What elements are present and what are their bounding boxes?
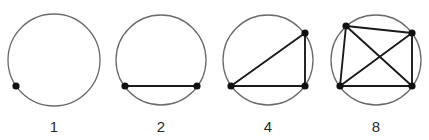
vertex-point	[301, 29, 308, 36]
panel-3: 4	[223, 15, 313, 135]
diagram-canvas: 1 2 4 8	[0, 0, 429, 140]
chords-4	[340, 26, 412, 86]
circle-2	[116, 15, 206, 105]
vertex-point	[193, 82, 200, 89]
panel-1: 1	[8, 14, 100, 135]
panel-label-1: 1	[50, 118, 58, 135]
vertex-point	[342, 22, 349, 29]
chord-line	[346, 26, 412, 86]
panel-2: 2	[116, 15, 206, 135]
points-1	[12, 82, 19, 89]
panel-4: 8	[331, 15, 421, 135]
vertex-point	[12, 82, 19, 89]
panel-label-4: 8	[372, 118, 380, 135]
vertex-point	[408, 82, 415, 89]
chords-3	[231, 33, 305, 86]
circle-division-diagram: 1 2 4 8	[0, 0, 429, 140]
circle-1	[8, 14, 100, 106]
chord-line	[231, 33, 305, 86]
chord-line	[346, 26, 412, 33]
chord-line	[340, 26, 346, 86]
vertex-point	[227, 82, 234, 89]
chord-line	[340, 33, 412, 86]
vertex-point	[121, 82, 128, 89]
vertex-point	[336, 82, 343, 89]
panel-label-2: 2	[157, 118, 165, 135]
vertex-point	[408, 29, 415, 36]
panel-label-3: 4	[264, 118, 272, 135]
vertex-point	[301, 82, 308, 89]
